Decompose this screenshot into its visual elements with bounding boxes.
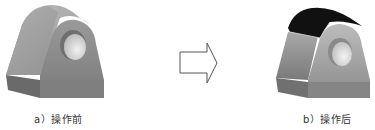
bracket-model-after (268, 0, 375, 110)
caption-after: b）操作后 (303, 111, 352, 126)
bracket-model-before (0, 0, 120, 110)
after-panel: b）操作后 (268, 0, 375, 130)
hollow-right-arrow-icon (170, 0, 230, 110)
caption-before: a）操作前 (34, 111, 83, 126)
before-panel: a）操作前 (0, 0, 120, 130)
arrow-panel (170, 0, 230, 130)
